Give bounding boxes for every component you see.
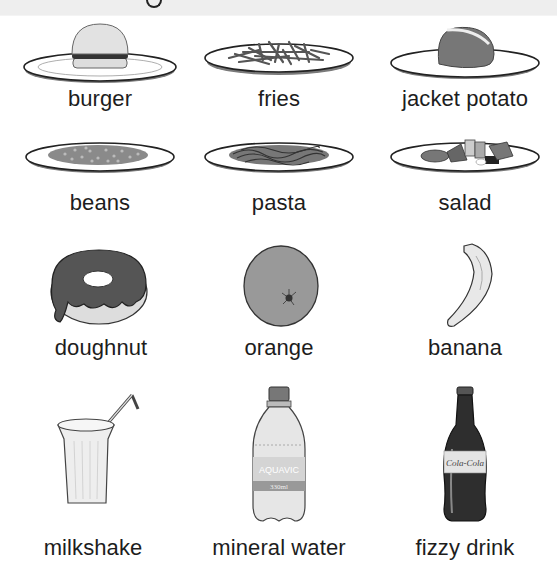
water-volume-text: 330ml xyxy=(270,483,288,491)
food-item-beans: beans xyxy=(7,130,193,230)
food-item-pasta: pasta xyxy=(186,130,372,230)
food-label: doughnut xyxy=(8,335,194,361)
banana-icon xyxy=(432,240,502,330)
beans-icon xyxy=(20,130,180,180)
food-item-mineral-water: AQUAVIC 330ml mineral water xyxy=(186,385,372,563)
food-label: jacket potato xyxy=(372,86,557,112)
doughnut-icon xyxy=(44,240,154,330)
orange-icon xyxy=(236,240,326,330)
milkshake-icon xyxy=(50,385,140,505)
food-label: mineral water xyxy=(186,535,372,561)
food-label: fries xyxy=(186,86,372,112)
food-item-salad: salad xyxy=(372,130,557,230)
food-item-milkshake: milkshake xyxy=(0,385,186,563)
salad-icon xyxy=(385,130,545,180)
food-item-doughnut: doughnut xyxy=(0,240,186,370)
food-label: orange xyxy=(186,335,372,361)
food-label: beans xyxy=(7,190,193,216)
jacket-potato-icon xyxy=(385,20,545,90)
food-item-orange: orange xyxy=(186,240,372,370)
burger-icon xyxy=(20,20,180,90)
pasta-icon xyxy=(199,130,359,180)
fries-icon xyxy=(199,20,359,90)
food-item-fizzy-drink: Cola-Cola fizzy drink xyxy=(372,385,557,563)
food-item-jacket-potato: jacket potato xyxy=(372,20,557,120)
food-label: burger xyxy=(7,86,193,112)
food-item-fries: fries xyxy=(186,20,372,120)
food-label: fizzy drink xyxy=(372,535,557,561)
cola-brand-text: Cola-Cola xyxy=(446,458,485,468)
food-label: banana xyxy=(372,335,557,361)
food-item-burger: burger xyxy=(7,20,193,120)
fizzy-drink-icon: Cola-Cola xyxy=(440,385,490,525)
food-label: milkshake xyxy=(0,535,186,561)
food-item-banana: banana xyxy=(372,240,557,370)
title-strip-cutoff xyxy=(0,0,557,16)
food-label: pasta xyxy=(186,190,372,216)
water-brand-text: AQUAVIC xyxy=(259,465,299,475)
food-label: salad xyxy=(372,190,557,216)
title-letter-g-fragment xyxy=(146,0,162,8)
mineral-water-icon: AQUAVIC 330ml xyxy=(249,385,309,525)
